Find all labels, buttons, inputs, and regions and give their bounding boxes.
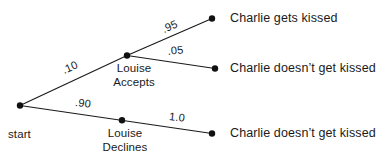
node-label-louise-accepts-line1: Louise <box>104 62 164 76</box>
node-label-louise-declines: Louise Declines <box>94 127 156 154</box>
node-start <box>17 102 23 108</box>
node-label-louise-declines-line2: Declines <box>94 141 156 155</box>
node-outcome-not-kissed-declines <box>209 130 215 136</box>
node-label-louise-declines-line1: Louise <box>94 127 156 141</box>
probability-tree-diagram: start Louise Accepts Louise Declines .10… <box>0 0 390 162</box>
node-louise-declines <box>119 117 125 123</box>
edge-probability-start-to-declines: .90 <box>74 96 91 111</box>
node-label-louise-accepts-line2: Accepts <box>104 76 164 90</box>
node-outcome-kissed <box>209 15 215 21</box>
outcome-label-charlie-doesnt-get-kissed-declines: Charlie doesn’t get kissed <box>230 126 376 141</box>
node-label-louise-accepts: Louise Accepts <box>104 62 164 89</box>
edge-probability-declines-to-not-kissed: 1.0 <box>168 110 185 125</box>
node-louise-accepts <box>124 52 130 58</box>
edge-probability-accepts-to-not-kissed: .05 <box>167 43 184 58</box>
node-label-start: start <box>8 128 31 142</box>
outcome-label-charlie-doesnt-get-kissed-accepts: Charlie doesn’t get kissed <box>230 61 376 76</box>
outcome-label-charlie-gets-kissed: Charlie gets kissed <box>230 11 338 26</box>
node-outcome-not-kissed-accepts <box>212 65 218 71</box>
